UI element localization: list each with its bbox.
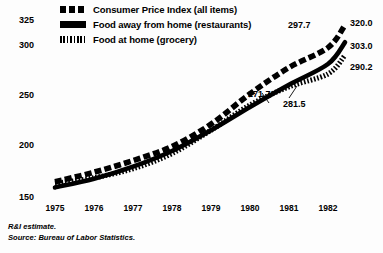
annotation-303-0: 303.0 bbox=[350, 41, 373, 51]
footnotes: R&I estimate. Source: Bureau of Labor St… bbox=[8, 222, 135, 243]
annotation-281-5: 281.5 bbox=[283, 99, 306, 109]
chart-plot-area bbox=[0, 0, 383, 253]
footnote-estimate: R&I estimate. bbox=[8, 222, 135, 233]
series-line-food-at-home bbox=[55, 55, 345, 183]
chart-figure: Consumer Price Index (all items) Food aw… bbox=[0, 0, 383, 253]
annotation-290-2: 290.2 bbox=[350, 62, 373, 72]
footnote-source: Source: Bureau of Labor Statistics. bbox=[8, 233, 135, 244]
annotation-271-7: 271.7 bbox=[248, 89, 271, 99]
annotation-320-0: 320.0 bbox=[350, 18, 373, 28]
annotation-297-7: 297.7 bbox=[288, 20, 311, 30]
